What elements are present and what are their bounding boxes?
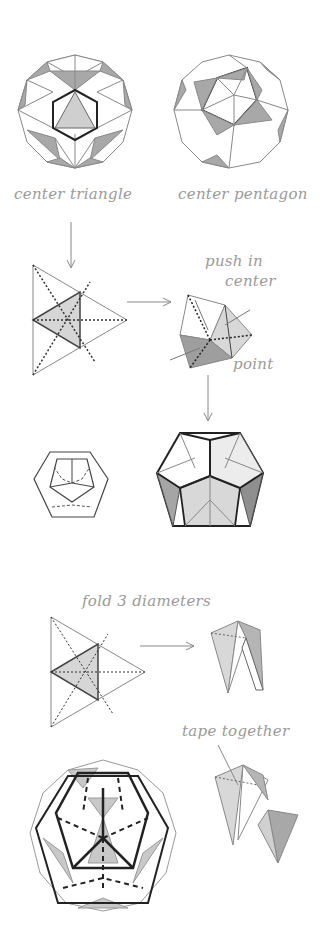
- crease-triangle-2: [48, 614, 148, 729]
- label-center: center: [225, 272, 276, 290]
- arrow-right-1: [125, 296, 175, 308]
- label-tape-together: tape together: [182, 722, 289, 740]
- crease-triangle-1: [30, 262, 130, 377]
- arrow-right-2: [138, 640, 198, 652]
- dodecahedron-shaded: [155, 428, 267, 533]
- assembled-polyhedron: [28, 758, 178, 913]
- label-point: point: [233, 355, 274, 373]
- label-fold-3-diameters: fold 3 diameters: [82, 592, 211, 610]
- polyhedron-center-pentagon: [172, 50, 292, 175]
- arrow-down-2: [202, 375, 214, 425]
- polyhedron-center-triangle: [15, 50, 135, 175]
- label-center-pentagon: center pentagon: [178, 185, 308, 203]
- label-push-in: push in: [205, 252, 263, 270]
- dodecahedron-wireframe: [32, 447, 112, 522]
- folded-diameters-form: [208, 618, 268, 698]
- taped-together-form: [213, 745, 303, 865]
- label-center-triangle: center triangle: [14, 185, 132, 203]
